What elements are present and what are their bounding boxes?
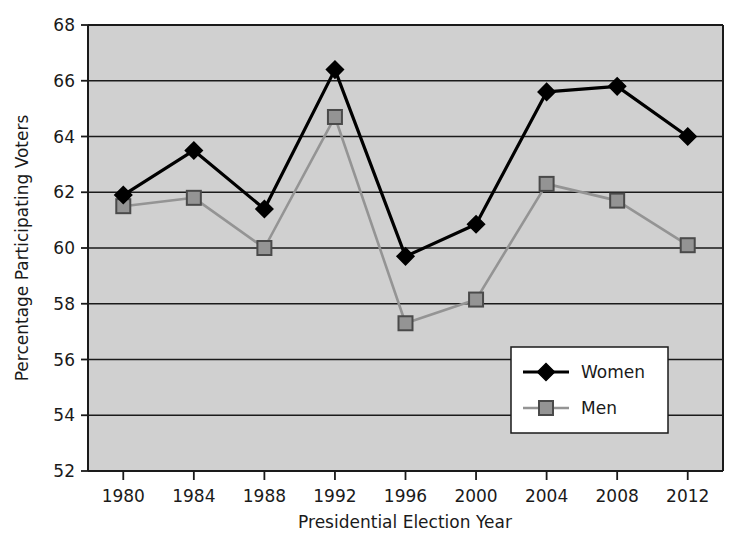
line-chart: 525456586062646668 198019841988199219962… <box>0 0 744 550</box>
data-point-marker <box>257 241 271 255</box>
x-axis-tick-label: 1992 <box>313 486 356 506</box>
legend-label-men: Men <box>581 398 617 418</box>
x-axis-tick-label: 2012 <box>666 486 709 506</box>
x-axis-tick-marks <box>123 471 687 480</box>
data-point-marker <box>539 401 553 415</box>
y-axis-tick-label: 58 <box>53 294 75 314</box>
data-point-marker <box>610 194 624 208</box>
x-axis-tick-labels: 198019841988199219962000200420082012 <box>102 486 710 506</box>
legend-box <box>511 347 668 433</box>
x-axis-tick-label: 1988 <box>243 486 286 506</box>
y-axis-tick-labels: 525456586062646668 <box>53 15 88 481</box>
data-point-marker <box>399 316 413 330</box>
x-axis-title: Presidential Election Year <box>298 512 512 532</box>
y-axis-tick-label: 66 <box>53 71 75 91</box>
data-point-marker <box>187 191 201 205</box>
x-axis-tick-label: 2004 <box>525 486 568 506</box>
x-axis-tick-label: 2000 <box>454 486 497 506</box>
data-point-marker <box>328 110 342 124</box>
data-point-marker <box>469 293 483 307</box>
y-axis-tick-label: 68 <box>53 15 75 35</box>
y-axis-tick-label: 62 <box>53 182 75 202</box>
data-point-marker <box>681 238 695 252</box>
y-axis-tick-label: 54 <box>53 405 75 425</box>
chart-container: 525456586062646668 198019841988199219962… <box>0 0 744 550</box>
y-axis-tick-label: 56 <box>53 350 75 370</box>
x-axis-tick-label: 1980 <box>102 486 145 506</box>
x-axis-tick-label: 2008 <box>596 486 639 506</box>
y-axis-tick-label: 60 <box>53 238 75 258</box>
x-axis-tick-label: 1996 <box>384 486 427 506</box>
y-axis-title: Percentage Participating Voters <box>12 115 32 382</box>
y-axis-tick-label: 64 <box>53 127 75 147</box>
chart-legend[interactable]: WomenMen <box>511 347 668 433</box>
x-axis-tick-label: 1984 <box>172 486 215 506</box>
data-point-marker <box>540 177 554 191</box>
y-axis-tick-label: 52 <box>53 461 75 481</box>
legend-label-women: Women <box>581 362 645 382</box>
